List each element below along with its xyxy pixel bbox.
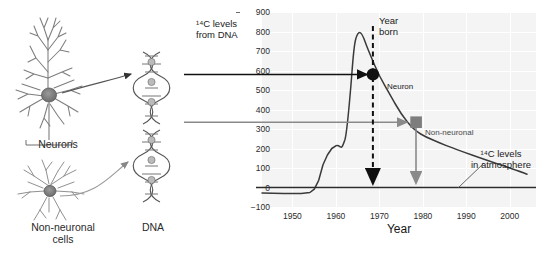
gridline-700 <box>262 51 536 52</box>
glial-to-dna-arrow <box>60 162 128 196</box>
gridline-1980 <box>423 12 424 207</box>
y-tick-300: 300 <box>240 124 270 134</box>
x-tick-1950: 1950 <box>272 211 312 221</box>
y-tick-900: 900 <box>240 7 270 17</box>
gridline-900 <box>262 12 536 13</box>
gridline-400 <box>262 110 536 111</box>
x-tick-2000: 2000 <box>490 211 530 221</box>
neuron-soma <box>42 88 57 102</box>
y-tick-minus100: −100 <box>240 202 270 212</box>
gridline-0 <box>262 188 536 189</box>
year-born-annotation: Year born <box>379 15 398 37</box>
gridline-minus100 <box>262 207 536 208</box>
neurons-label: Neurons <box>18 139 98 151</box>
y-tick-800: 800 <box>240 27 270 37</box>
dna-double-helix-icon <box>133 52 170 124</box>
nonneuronal-cells-label: Non-neuronal cells <box>8 222 118 245</box>
gridline-2000 <box>510 12 511 207</box>
x-tick-1970: 1970 <box>359 211 399 221</box>
gridline-1990 <box>466 12 467 207</box>
atmosphere-annotation: ¹⁴C levels in atmosphere <box>455 148 547 170</box>
x-tick-1990: 1990 <box>446 211 486 221</box>
y-tick-600: 600 <box>240 66 270 76</box>
y-tick-400: 400 <box>240 105 270 115</box>
y-tick-100: 100 <box>240 163 270 173</box>
x-axis-title: Year <box>262 222 536 236</box>
c14-levels-chart: 900 800 700 600 500 400 300 200 100 0 −1… <box>262 12 536 207</box>
neuron-point-label: Neuron <box>387 82 413 91</box>
gridline-600 <box>262 71 536 72</box>
gridline-300 <box>262 129 536 130</box>
y-tick-200: 200 <box>240 144 270 154</box>
y-tick-700: 700 <box>240 46 270 56</box>
y-tick-500: 500 <box>240 85 270 95</box>
x-tick-1960: 1960 <box>316 211 356 221</box>
x-tick-1980: 1980 <box>403 211 443 221</box>
nonneuronal-point-label: Non-neuronal <box>425 128 473 137</box>
gridline-800 <box>262 32 536 33</box>
gridline-1950 <box>292 12 293 207</box>
gridline-1970 <box>379 12 380 207</box>
bomb-pulse-dating-figure: Neurons Non-neuronal cells DNA ¹⁴C level… <box>0 0 548 255</box>
neuron-to-dna-arrow <box>62 74 131 93</box>
dna-double-helix-icon-2 <box>133 130 170 202</box>
glial-soma <box>44 186 56 197</box>
y-tick-0: 0 <box>240 183 270 193</box>
gridline-1960 <box>336 12 337 207</box>
dna-label: DNA <box>123 222 183 234</box>
